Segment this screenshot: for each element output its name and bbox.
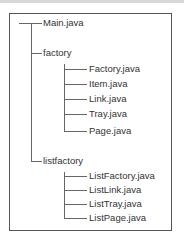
- listfactory-trunk-line: [64, 172, 65, 219]
- branch-listfactory-java: [64, 176, 87, 177]
- root-stub-line: [19, 23, 31, 24]
- branch-factory: [31, 53, 42, 54]
- branch-listfactory: [31, 161, 42, 162]
- branch-page-java: [64, 131, 87, 132]
- file-factory-java: Factory.java: [89, 63, 140, 75]
- folder-listfactory: listfactory: [43, 155, 83, 167]
- file-main-java: Main.java: [43, 17, 84, 29]
- branch-main: [31, 23, 42, 24]
- file-listtray-java: ListTray.java: [89, 198, 142, 210]
- branch-item-java: [64, 84, 87, 85]
- file-listpage-java: ListPage.java: [89, 212, 146, 224]
- file-tray-java: Tray.java: [89, 108, 127, 120]
- branch-listlink-java: [64, 190, 87, 191]
- file-page-java: Page.java: [89, 125, 131, 137]
- root-trunk-line: [31, 23, 32, 161]
- file-listlink-java: ListLink.java: [89, 184, 141, 196]
- file-item-java: Item.java: [89, 78, 128, 90]
- branch-listpage-java: [64, 218, 87, 219]
- folder-factory: factory: [43, 47, 72, 59]
- factory-trunk-line: [64, 64, 65, 132]
- branch-link-java: [64, 99, 87, 100]
- branch-tray-java: [64, 114, 87, 115]
- top-band: [0, 0, 184, 3]
- file-listfactory-java: ListFactory.java: [89, 170, 155, 182]
- branch-factory-java: [64, 69, 87, 70]
- branch-listtray-java: [64, 204, 87, 205]
- file-link-java: Link.java: [89, 93, 127, 105]
